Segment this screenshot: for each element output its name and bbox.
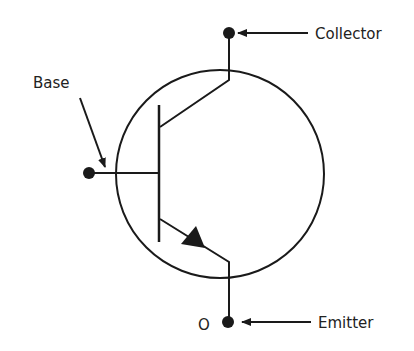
base-pointer-arrow [80,98,105,167]
emitter-marker-label: O [198,316,210,334]
base-label: Base [33,74,70,92]
collector-label: Collector [315,25,383,43]
emitter-terminal-dot [222,316,234,328]
collector-lead [160,33,229,127]
emitter-arrow-icon [181,226,205,248]
transistor-diagram: Collector Base Emitter O [0,0,414,351]
emitter-label: Emitter [318,314,374,332]
collector-terminal-dot [223,27,235,39]
base-terminal-dot [83,167,95,179]
